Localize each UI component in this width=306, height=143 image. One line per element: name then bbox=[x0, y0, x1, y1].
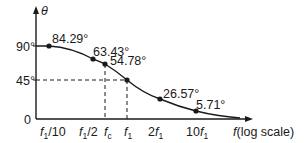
y-tick-label-0: 0 bbox=[24, 113, 31, 127]
y-tick-label-45: 45° bbox=[16, 74, 35, 88]
data-point-f1 bbox=[124, 77, 129, 82]
point-label-54: 54.78° bbox=[110, 54, 146, 68]
data-point-2f1 bbox=[157, 96, 162, 101]
x-tick-label-f1: f1 bbox=[124, 125, 132, 141]
y-axis-arrow-icon bbox=[33, 6, 39, 14]
data-point-fc bbox=[102, 61, 107, 66]
x-tick-label-2f1: 2f1 bbox=[148, 125, 163, 141]
y-axis-label: θ bbox=[41, 4, 48, 18]
x-tick-label-f1-2: f1/2 bbox=[79, 125, 98, 141]
phase-plot: θ 90° 45° 0 84.29° 63.43° 54.78° 26.57° … bbox=[0, 0, 306, 143]
x-tick-label-fc: fc bbox=[104, 125, 112, 141]
data-point-f1-10 bbox=[46, 43, 51, 48]
y-tick-label-90: 90° bbox=[16, 40, 35, 54]
x-tick-label-f1-10: f1/10 bbox=[40, 125, 66, 141]
x-axis-arrow-icon bbox=[245, 116, 253, 122]
point-label-84: 84.29° bbox=[52, 32, 88, 46]
x-tick-label-10f1: 10f1 bbox=[186, 125, 208, 141]
point-label-5: 5.71° bbox=[196, 98, 225, 112]
x-axis-label: f(log scale) bbox=[233, 125, 294, 139]
point-label-26: 26.57° bbox=[163, 87, 199, 101]
